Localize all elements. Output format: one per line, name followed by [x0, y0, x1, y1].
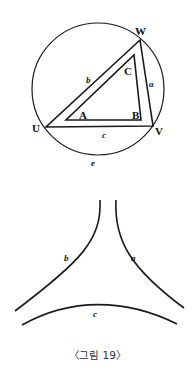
label-side-a: a [149, 79, 154, 89]
figure-canvas: W U V A B C b a c e b a c [0, 0, 195, 381]
label-arc-e: e [91, 158, 95, 168]
curve-a [116, 200, 184, 308]
figure-caption: 〈그림 19〉 [0, 347, 195, 362]
hyperbolic-triangle-diagram: b a c [15, 200, 184, 325]
label-curve-c: c [93, 309, 97, 319]
label-curve-b: b [64, 253, 69, 263]
label-a-vertex: A [79, 109, 87, 121]
label-b-vertex: B [132, 109, 140, 121]
circle-triangle-diagram: W U V A B C b a c e [32, 23, 164, 168]
label-u: U [32, 122, 40, 134]
label-side-b: b [86, 75, 91, 85]
label-v: V [155, 125, 163, 137]
curve-b [15, 200, 100, 311]
label-curve-a: a [131, 253, 136, 263]
curve-c [22, 305, 177, 325]
label-c-vertex: C [124, 65, 132, 77]
label-side-c: c [102, 130, 106, 140]
label-w: W [135, 25, 146, 37]
